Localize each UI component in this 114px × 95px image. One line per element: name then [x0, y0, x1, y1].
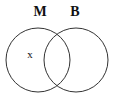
- set-b-label: B: [70, 4, 79, 19]
- venn-diagram: M B x: [0, 0, 114, 95]
- element-x-label: x: [27, 48, 33, 60]
- set-m-circle: [6, 28, 70, 92]
- set-b-circle: [44, 28, 108, 92]
- set-m-label: M: [33, 4, 46, 19]
